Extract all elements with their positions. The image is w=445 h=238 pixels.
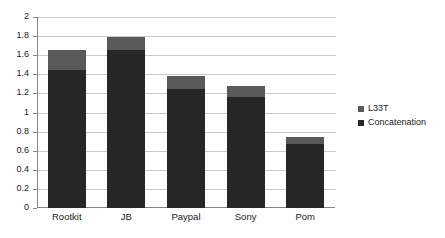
legend-item-l33t[interactable]: L33T bbox=[358, 103, 442, 114]
x-axis-label-sony: Sony bbox=[216, 211, 276, 223]
bars-layer bbox=[37, 17, 335, 208]
x-axis-label-paypal: Paypal bbox=[156, 211, 216, 223]
stacked-bar-chart: 00.20.40.60.811.21.41.61.82 RootkitJBPay… bbox=[0, 0, 445, 238]
chart-legend: L33TConcatenation bbox=[358, 103, 442, 131]
y-axis-tick-label: 1.2 bbox=[0, 88, 29, 97]
y-axis-tick-label: 0.8 bbox=[0, 127, 29, 136]
bar-segment-l33t[interactable] bbox=[107, 37, 145, 50]
bar-segment-l33t[interactable] bbox=[286, 137, 324, 144]
bar-group[interactable] bbox=[286, 17, 324, 208]
x-axis-label-jb: JB bbox=[97, 211, 157, 223]
legend-label: Concatenation bbox=[368, 118, 426, 127]
y-axis-tick-label: 0 bbox=[0, 203, 29, 212]
bar-segment-l33t[interactable] bbox=[167, 76, 205, 88]
bar-group[interactable] bbox=[227, 17, 265, 208]
bar-segment-concatenation[interactable] bbox=[286, 144, 324, 208]
y-axis-tick-label: 0.6 bbox=[0, 146, 29, 155]
y-axis-tick-mark bbox=[33, 208, 37, 209]
bar-group[interactable] bbox=[167, 17, 205, 208]
y-axis-labels: 00.20.40.60.811.21.41.61.82 bbox=[0, 0, 33, 238]
bar-segment-l33t[interactable] bbox=[227, 86, 265, 97]
bar-segment-concatenation[interactable] bbox=[227, 97, 265, 208]
legend-swatch-icon bbox=[358, 120, 364, 126]
legend-item-concatenation[interactable]: Concatenation bbox=[358, 117, 442, 128]
bar-segment-concatenation[interactable] bbox=[107, 50, 145, 208]
bar-group[interactable] bbox=[107, 17, 145, 208]
x-axis-labels: RootkitJBPaypalSonyPom bbox=[37, 211, 335, 227]
legend-swatch-icon bbox=[358, 106, 364, 112]
y-axis-tick-label: 1 bbox=[0, 108, 29, 117]
y-axis-tick-label: 1.4 bbox=[0, 69, 29, 78]
y-axis-tick-label: 1.8 bbox=[0, 31, 29, 40]
y-axis-tick-label: 0.4 bbox=[0, 165, 29, 174]
x-axis-label-rootkit: Rootkit bbox=[37, 211, 97, 223]
bar-segment-concatenation[interactable] bbox=[167, 89, 205, 208]
y-axis-tick-label: 2 bbox=[0, 12, 29, 21]
y-axis-tick-label: 1.6 bbox=[0, 50, 29, 59]
x-axis-label-pom: Pom bbox=[275, 211, 335, 223]
bar-segment-concatenation[interactable] bbox=[48, 70, 86, 208]
bar-segment-l33t[interactable] bbox=[48, 50, 86, 69]
legend-label: L33T bbox=[368, 104, 389, 113]
y-axis-tick-label: 0.2 bbox=[0, 184, 29, 193]
bar-group[interactable] bbox=[48, 17, 86, 208]
